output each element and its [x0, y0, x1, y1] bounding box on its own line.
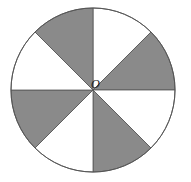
- sector-circle-diagram: O: [0, 0, 191, 182]
- center-label-o: O: [91, 78, 100, 91]
